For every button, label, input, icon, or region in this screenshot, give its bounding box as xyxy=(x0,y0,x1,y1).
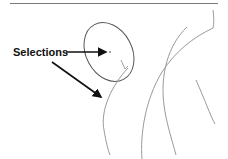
arrow-to-arc-icon xyxy=(52,62,101,97)
selection-tick xyxy=(121,60,128,69)
outer-arc-middle xyxy=(163,27,187,155)
outer-arc-right xyxy=(196,10,215,124)
center-point xyxy=(109,51,111,53)
sketch-canvas xyxy=(0,0,228,159)
selections-label: Selections xyxy=(13,46,68,58)
